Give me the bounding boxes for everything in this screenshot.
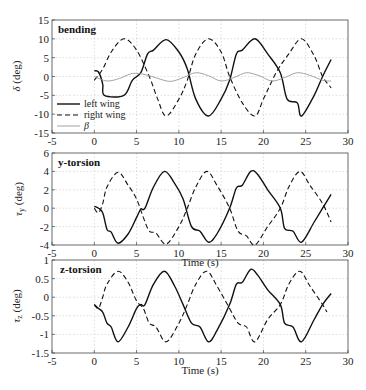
y-tick-label: -2 bbox=[40, 221, 49, 233]
y-tick-label: 0 bbox=[44, 71, 50, 83]
right-wing-line bbox=[94, 271, 327, 342]
bending-series bbox=[94, 39, 331, 116]
x-tick-label: 25 bbox=[300, 247, 312, 259]
z-torsion-series bbox=[94, 269, 331, 342]
y-tick-label: 5 bbox=[44, 52, 50, 64]
x-tick-label: 20 bbox=[258, 355, 270, 367]
y-torsion-ylabel: τy (deg) bbox=[12, 182, 26, 216]
x-tick-label: -5 bbox=[47, 135, 57, 147]
beta-line bbox=[94, 73, 331, 82]
y-torsion-xlabel: Time (s) bbox=[181, 256, 219, 269]
x-tick-label: 10 bbox=[173, 135, 185, 147]
x-tick-label: 20 bbox=[258, 247, 270, 259]
left-wing-line bbox=[94, 171, 331, 244]
y-tick-label: 10 bbox=[38, 33, 50, 45]
bending-ylabel: δ (deg) bbox=[10, 60, 23, 91]
x-tick-label: 5 bbox=[134, 355, 140, 367]
x-tick-label: 0 bbox=[92, 355, 98, 367]
z-torsion-title: z-torsion bbox=[60, 263, 102, 275]
x-tick-label: 5 bbox=[134, 135, 140, 147]
y-tick-label: 0.5 bbox=[35, 273, 49, 285]
bending-ylabel-unit: (deg) bbox=[10, 60, 23, 86]
x-tick-label: 25 bbox=[300, 135, 312, 147]
y-torsion-yticks: 6420-2-4 bbox=[40, 147, 55, 251]
x-tick-label: 15 bbox=[216, 135, 228, 147]
bending-xticks: -5051015202530 bbox=[47, 130, 354, 147]
legend-left-wing-label: left wing bbox=[84, 98, 120, 109]
legend: left wing right wing β bbox=[57, 98, 125, 131]
x-tick-label: 30 bbox=[343, 135, 355, 147]
x-tick-label: 5 bbox=[134, 247, 140, 259]
x-tick-label: 30 bbox=[343, 355, 355, 367]
y-tick-label: -1 bbox=[40, 328, 49, 340]
x-tick-label: 20 bbox=[258, 135, 270, 147]
y-tick-label: -0.5 bbox=[32, 310, 50, 322]
figure: 151050-5-10-15 -5051015202530 bending δ … bbox=[0, 0, 366, 390]
bending-panel: 151050-5-10-15 -5051015202530 bending δ … bbox=[10, 14, 354, 147]
z-torsion-xlabel: Time (s) bbox=[181, 364, 219, 377]
z-torsion-ylabel-unit: (deg) bbox=[10, 289, 23, 315]
y-tick-label: 15 bbox=[38, 14, 50, 26]
legend-right-wing-label: right wing bbox=[84, 109, 125, 120]
y-torsion-panel: 6420-2-4 -5051015202530 y-torsion τy (de… bbox=[12, 147, 354, 269]
legend-beta-label: β bbox=[83, 120, 89, 131]
y-tick-label: 4 bbox=[44, 165, 50, 177]
y-tick-label: -5 bbox=[40, 89, 50, 101]
y-tick-label: 6 bbox=[44, 147, 50, 159]
y-tick-label: 0 bbox=[44, 291, 50, 303]
y-torsion-ylabel-unit: (deg) bbox=[12, 182, 25, 208]
x-tick-label: -5 bbox=[47, 355, 57, 367]
x-tick-label: 30 bbox=[343, 247, 355, 259]
z-torsion-panel: 10.50-0.5-1-1.5 -5051015202530 z-torsion… bbox=[10, 254, 354, 377]
bending-title: bending bbox=[58, 23, 96, 35]
left-wing-line bbox=[94, 269, 331, 342]
z-torsion-ylabel: τz (deg) bbox=[10, 289, 24, 323]
y-tick-label: 0 bbox=[44, 202, 50, 214]
x-tick-label: 25 bbox=[300, 355, 312, 367]
y-tick-label: 2 bbox=[44, 184, 50, 196]
x-tick-label: 0 bbox=[92, 247, 98, 259]
y-torsion-title: y-torsion bbox=[58, 156, 100, 168]
x-tick-label: 0 bbox=[92, 135, 98, 147]
y-tick-label: -10 bbox=[34, 108, 49, 120]
y-tick-label: 1 bbox=[44, 254, 50, 266]
z-torsion-yticks: 10.50-0.5-1-1.5 bbox=[32, 254, 55, 359]
